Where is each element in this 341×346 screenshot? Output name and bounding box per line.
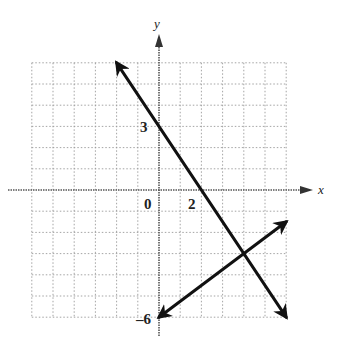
line-2 <box>159 222 286 317</box>
y-axis-arrow-icon <box>155 34 163 47</box>
origin-label: 0 <box>144 196 152 212</box>
y-tick-label-3: 3 <box>140 119 148 135</box>
y-axis-label: y <box>152 16 160 31</box>
y-tick-label-neg6: –6 <box>135 311 152 327</box>
x-axis-arrow-icon <box>300 186 313 194</box>
x-axis-label: x <box>317 182 324 197</box>
coordinate-plane: x y 0 2 3 –6 <box>0 0 341 346</box>
x-tick-label-2: 2 <box>188 196 196 212</box>
